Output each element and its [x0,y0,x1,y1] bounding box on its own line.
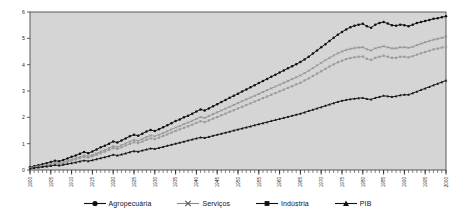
legend-label: Serviços [202,200,230,207]
y-tick-label: 5 [22,35,25,41]
y-tick-label: 3 [22,88,25,94]
plot-area [30,12,446,170]
y-tick-label: 1 [22,141,25,147]
x-tick-label: 1930 [153,177,158,188]
x-tick-label: 1990 [402,177,407,188]
legend-item-pib[interactable]: PIB [335,199,372,208]
legend-item-agropecuaria[interactable]: Agropecuária [84,199,152,208]
x-tick-label: 1955 [257,177,262,188]
x-tick-label: 1975 [340,177,345,188]
triangle-marker-icon [335,199,357,208]
x-tick-label: 1935 [173,177,178,188]
x-tick-label: 1995 [423,177,428,188]
circle-marker-icon [84,199,106,208]
x-tick-label: 1985 [381,177,386,188]
x-tick-label: 1900 [28,177,33,188]
legend-label: Indústria [281,200,309,207]
chart-canvas: 0123456190019051910191519201925193019351… [0,0,455,214]
x-tick-label: 1905 [49,177,54,188]
x-tick-label: 1970 [319,177,324,188]
x-tick-label: 1965 [298,177,303,188]
x-tick-label: 1915 [90,177,95,188]
square-marker-icon [256,199,278,208]
chart-legend: Agropecuária Serviços Indústria PIB [0,193,455,214]
legend-item-servicos[interactable]: Serviços [177,199,230,208]
legend-label: PIB [360,200,372,207]
y-tick-label: 4 [22,62,25,68]
x-tick-label: 1960 [277,177,282,188]
y-tick-label: 0 [22,167,25,173]
x-marker-icon [177,199,199,208]
x-tick-label: 2000 [444,177,449,188]
y-tick-label: 2 [22,114,25,120]
x-tick-label: 1945 [215,177,220,188]
x-tick-label: 1950 [236,177,241,188]
line-chart: 0123456190019051910191519201925193019351… [0,0,455,214]
y-tick-label: 6 [22,9,25,15]
x-tick-label: 1925 [132,177,137,188]
x-tick-label: 1980 [361,177,366,188]
x-tick-label: 1940 [194,177,199,188]
x-tick-label: 1910 [69,177,74,188]
x-tick-label: 1920 [111,177,116,188]
legend-label: Agropecuária [109,200,152,207]
legend-item-industria[interactable]: Indústria [256,199,309,208]
